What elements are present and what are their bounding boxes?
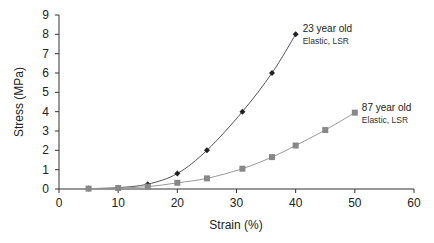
data-point-diamond [174, 171, 180, 177]
x-tick-label: 30 [230, 196, 244, 210]
series-line-23yr [89, 34, 296, 188]
x-tick-label: 40 [289, 196, 303, 210]
series-annotation-subtitle: Elastic, LSR [362, 115, 408, 125]
y-axis-label: Stress (MPa) [12, 67, 26, 137]
y-tick-label: 2 [42, 143, 49, 157]
data-point-diamond [269, 70, 275, 76]
data-point-square [174, 180, 180, 186]
x-tick-label: 0 [56, 196, 63, 210]
data-point-square [293, 143, 299, 149]
series-group [86, 31, 358, 191]
x-axis-label: Strain (%) [209, 218, 262, 232]
data-point-square [239, 166, 245, 172]
y-tick-label: 1 [42, 163, 49, 177]
y-tick-label: 8 [42, 27, 49, 41]
y-tick-label: 7 [42, 47, 49, 61]
series-annotation-title: 23 year old [303, 23, 352, 34]
y-tick-label: 3 [42, 124, 49, 138]
stress-strain-chart: 01020304050600123456789 23 year oldElast… [0, 0, 434, 243]
series-line-87yr [89, 113, 355, 189]
y-tick-label: 6 [42, 66, 49, 80]
data-point-square [269, 154, 275, 160]
data-point-square [352, 110, 358, 116]
data-point-diamond [293, 31, 299, 37]
x-tick-label: 50 [348, 196, 362, 210]
y-tick-label: 9 [42, 8, 49, 22]
data-point-square [322, 127, 328, 133]
data-point-square [204, 175, 210, 181]
series-annotation-subtitle: Elastic, LSR [303, 36, 349, 46]
x-tick-label: 10 [111, 196, 125, 210]
y-tick-label: 5 [42, 85, 49, 99]
x-tick-label: 60 [407, 196, 421, 210]
y-tick-label: 0 [42, 182, 49, 196]
x-tick-label: 20 [171, 196, 185, 210]
data-point-square [86, 186, 92, 192]
data-point-square [145, 184, 151, 190]
data-point-square [115, 185, 121, 191]
annotations: 23 year oldElastic, LSR87 year oldElasti… [303, 23, 412, 124]
y-tick-label: 4 [42, 105, 49, 119]
series-annotation-title: 87 year old [362, 102, 411, 113]
